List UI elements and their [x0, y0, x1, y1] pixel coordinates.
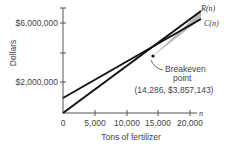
breakeven-marker — [151, 54, 154, 57]
x-tick-label-15k: 15,000 — [145, 118, 171, 128]
y-tick-label-6m: $6,000,000 — [15, 18, 58, 28]
x-tick-label-10k: 10,000 — [114, 118, 140, 128]
breakeven-label-line2: point — [173, 73, 192, 83]
y-tick-label-2m: $2,000,000 — [15, 77, 58, 87]
breakeven-coordinates: (14,286, $3,857,143) — [135, 85, 214, 95]
revenue-label: R(n) — [200, 4, 216, 13]
y-axis-title: Dollars — [8, 40, 18, 66]
cost-label: C(n) — [204, 19, 219, 28]
x-tick-label-0: 0 — [61, 118, 66, 128]
annotation-leader — [151, 60, 163, 70]
x-axis-title: Tons of fertilizer — [101, 132, 161, 142]
x-tick-label-5k: 5,000 — [84, 118, 106, 128]
breakeven-chart: $6,000,000 $2,000,000 Dollars 0 5,000 10… — [0, 0, 227, 150]
revenue-line — [63, 11, 201, 113]
x-tick-label-20k: 20,000 — [177, 118, 203, 128]
x-axis-variable: n — [199, 109, 203, 118]
